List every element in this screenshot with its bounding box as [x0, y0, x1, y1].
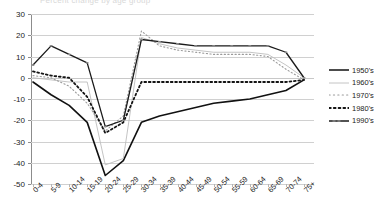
- series-marker-s1990: [104, 126, 107, 127]
- legend-swatch-icon: [329, 103, 349, 113]
- legend-item-s1950[interactable]: 1950's: [329, 64, 387, 77]
- series-marker-s1990: [32, 64, 35, 65]
- series-marker-s1990: [303, 77, 306, 78]
- legend-label: 1990's: [352, 116, 374, 125]
- series-marker-s1990: [285, 52, 288, 53]
- y-axis-label: -50: [13, 180, 25, 189]
- y-axis-label: -40: [13, 158, 25, 167]
- series-marker-s1990: [248, 45, 251, 46]
- series-marker-s1990: [176, 43, 179, 44]
- chart-legend: 1950's1960's1970's1980's1990's: [329, 64, 387, 127]
- y-axis-label: -30: [13, 137, 25, 146]
- series-marker-s1990: [86, 62, 89, 63]
- series-line-s1950: [33, 80, 304, 176]
- legend-swatch-icon: [329, 116, 349, 126]
- legend-swatch-icon: [329, 90, 349, 100]
- series-line-s1980: [33, 71, 304, 133]
- legend-label: 1970's: [352, 91, 374, 100]
- chart-title-clipped: Percent change by age group: [0, 0, 387, 7]
- series-marker-s1990: [50, 45, 53, 46]
- legend-label: 1960's: [352, 78, 374, 87]
- chart-root: Percent change by age group 3020100-10-2…: [0, 0, 387, 215]
- legend-item-s1960[interactable]: 1960's: [329, 77, 387, 90]
- y-axis-label: 30: [16, 10, 25, 19]
- legend-item-s1970[interactable]: 1970's: [329, 89, 387, 102]
- series-marker-s1990: [194, 45, 197, 46]
- series-marker-s1990: [212, 45, 215, 46]
- series-marker-s1990: [122, 120, 125, 121]
- series-marker-s1990: [230, 45, 233, 46]
- y-axis-label: -20: [13, 116, 25, 125]
- series-marker-s1990: [158, 41, 161, 42]
- y-axis-tick: [28, 184, 31, 185]
- legend-item-s1990[interactable]: 1990's: [329, 114, 387, 127]
- chart-title-text: Percent change by age group: [0, 0, 387, 5]
- series-marker-s1990: [68, 54, 71, 55]
- series-marker-s1990: [266, 45, 269, 46]
- y-axis-label: 0: [21, 73, 25, 82]
- legend-item-s1980[interactable]: 1980's: [329, 102, 387, 115]
- series-marker-s1990: [140, 39, 143, 40]
- y-axis-label: 10: [16, 52, 25, 61]
- series-lines: [31, 14, 314, 184]
- legend-label: 1950's: [352, 66, 374, 75]
- plot-area: 3020100-10-20-30-40-50: [31, 14, 314, 184]
- legend-label: 1980's: [352, 104, 374, 113]
- legend-swatch-icon: [329, 78, 349, 88]
- y-axis-label: 20: [16, 31, 25, 40]
- legend-swatch-icon: [329, 65, 349, 75]
- y-axis-label: -10: [13, 95, 25, 104]
